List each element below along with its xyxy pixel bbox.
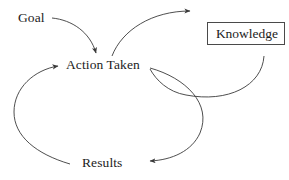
node-knowledge-box: Knowledge bbox=[207, 22, 285, 45]
edge-knowledge-to-action bbox=[150, 56, 264, 97]
node-action-taken: Action Taken bbox=[66, 58, 140, 72]
node-results: Results bbox=[82, 156, 122, 170]
node-goal: Goal bbox=[18, 11, 45, 25]
edge-action-to-knowledge bbox=[112, 11, 190, 56]
diagram-canvas: Goal Action Taken Results Knowledge bbox=[0, 0, 289, 180]
edge-action-to-results bbox=[150, 68, 203, 161]
edge-results-to-action bbox=[14, 66, 70, 164]
edge-goal-to-action bbox=[52, 18, 96, 53]
node-knowledge-label: Knowledge bbox=[208, 23, 286, 44]
